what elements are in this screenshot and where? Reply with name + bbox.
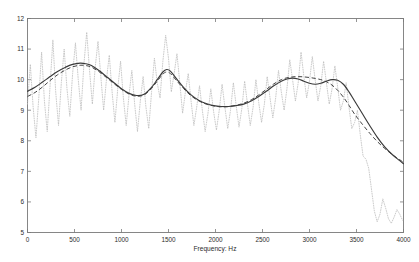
- series-smoothed-envelope-solid: [28, 63, 404, 164]
- x-tick-label: 4000: [396, 236, 411, 243]
- x-tick-label: 500: [69, 236, 80, 243]
- y-axis-ticks: [28, 19, 404, 233]
- plot-frame: [28, 19, 404, 233]
- y-tick-label: 12: [17, 15, 25, 22]
- data-series-layer: [28, 32, 404, 223]
- figure-container: 05001000150020002500300035004000 5678910…: [0, 0, 419, 262]
- x-axis-ticks: [28, 19, 404, 233]
- y-tick-label: 8: [20, 137, 24, 144]
- x-tick-label: 0: [26, 236, 30, 243]
- y-tick-label: 10: [17, 76, 25, 83]
- x-tick-label: 2500: [255, 236, 270, 243]
- x-tick-label: 3500: [349, 236, 364, 243]
- x-tick-label: 3000: [302, 236, 317, 243]
- y-tick-label: 7: [20, 168, 24, 175]
- axes-frame: [28, 19, 404, 233]
- y-tick-label: 6: [20, 198, 24, 205]
- x-tick-label: 1500: [161, 236, 176, 243]
- series-raw-spectrum-dotted: [28, 32, 403, 223]
- x-tick-label: 2000: [208, 236, 223, 243]
- x-axis-title: Frequency: Hz: [194, 245, 237, 253]
- series-model-envelope-dashed: [28, 65, 404, 162]
- y-axis-tick-labels: 56789101112: [17, 15, 25, 236]
- y-tick-label: 9: [20, 107, 24, 114]
- y-tick-label: 5: [20, 229, 24, 236]
- y-tick-label: 11: [17, 45, 24, 52]
- x-tick-label: 1000: [114, 236, 129, 243]
- spectrum-plot: 05001000150020002500300035004000 5678910…: [0, 0, 419, 262]
- x-axis-tick-labels: 05001000150020002500300035004000: [26, 236, 411, 243]
